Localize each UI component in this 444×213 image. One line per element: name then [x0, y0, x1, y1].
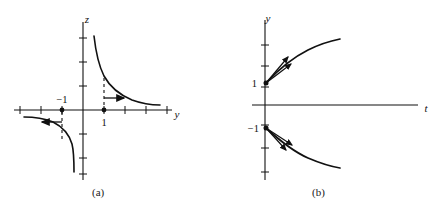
panel-b-arrow-up-shallow: [266, 64, 291, 83]
panel-b-label-one: 1: [252, 78, 257, 89]
panel-a-upper-right-branch: [94, 36, 160, 105]
panel-a-y-axis-label: z: [84, 13, 90, 25]
panel-b-point-neg-one: [264, 126, 269, 131]
caption-b: (b): [312, 186, 325, 198]
panel-a-x-axis-label: y: [174, 108, 180, 120]
panel-a: z y −1 1: [14, 13, 180, 180]
panel-b-x-axis-label: t: [424, 102, 428, 114]
panel-a-label-neg-one: −1: [56, 94, 67, 105]
panel-a-label-one: 1: [101, 117, 106, 128]
panel-a-point-one: [102, 108, 107, 113]
panel-b: y t 1 −1: [248, 12, 429, 180]
panel-a-point-neg-one: [60, 108, 65, 113]
panel-b-y-axis-label: y: [265, 12, 271, 24]
figure-canvas: z y −1 1 y t: [0, 0, 444, 213]
panel-b-lower-curve: [266, 128, 340, 168]
caption-a: (a): [92, 186, 104, 198]
panel-b-arrow-up-steep: [266, 57, 288, 83]
panel-b-upper-curve: [266, 39, 340, 83]
panel-b-label-neg-one: −1: [248, 123, 259, 134]
panel-a-lower-left-branch: [24, 117, 74, 172]
panel-b-point-one: [264, 81, 269, 86]
